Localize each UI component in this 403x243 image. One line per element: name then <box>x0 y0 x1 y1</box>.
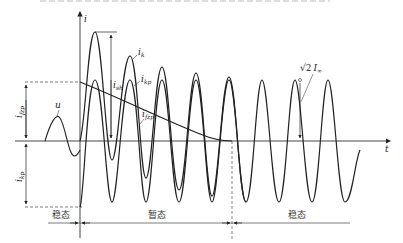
ik-leader-line <box>132 55 137 60</box>
ik-label: ik <box>138 47 145 58</box>
steady-amplitude-leader-line <box>301 74 313 102</box>
region-label-transient: 暂态 <box>148 209 166 220</box>
voltage-label-u: u <box>55 100 61 110</box>
region-label-post-steady: 稳态 <box>288 209 306 220</box>
region-label-pre-steady: 稳态 <box>52 209 70 220</box>
total-current-curve-ik <box>80 32 246 202</box>
steady-amplitude-label: √2I∞ <box>300 63 322 74</box>
ish-label: ish <box>113 80 123 91</box>
voltage-curve-u <box>45 116 80 156</box>
ifzp-leader-line <box>140 119 144 124</box>
ifzp-left-label: ifzp <box>14 106 26 118</box>
time-axis-label: t <box>385 144 389 154</box>
ikp-left-label: ikp <box>14 171 26 182</box>
short-circuit-current-diagram: i t ifzp ikp u ish ik ikp ifzp √2I∞ 稳态 暂… <box>0 0 403 243</box>
current-axis-label: i <box>84 14 87 24</box>
steady-peak-dot <box>299 79 302 82</box>
ikp-leader-line <box>134 81 140 86</box>
u-leader-line <box>57 110 59 116</box>
ikp-label: ikp <box>141 74 152 86</box>
